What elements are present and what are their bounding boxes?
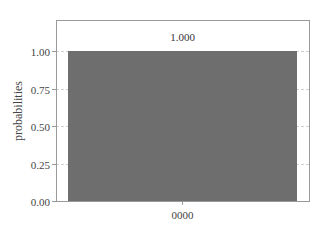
bars: 1.000: [68, 31, 297, 201]
y-tick-label: 0.00: [31, 196, 51, 208]
y-tick-label: 0.25: [31, 159, 51, 171]
y-tick-label: 0.50: [31, 121, 51, 133]
bar-chart: 1.000 0.000.250.500.751.00 0000 probabil…: [0, 0, 324, 233]
y-axis-label: probabilities: [11, 81, 25, 141]
bar-value-label: 1.000: [170, 31, 195, 43]
x-tick-label: 0000: [172, 209, 195, 221]
y-tick-label: 0.75: [31, 84, 51, 96]
x-axis-ticks: 0000: [172, 201, 195, 221]
y-tick-label: 1.00: [31, 46, 51, 58]
y-axis-ticks: 0.000.250.500.751.00: [31, 46, 56, 208]
bar: [68, 51, 297, 201]
